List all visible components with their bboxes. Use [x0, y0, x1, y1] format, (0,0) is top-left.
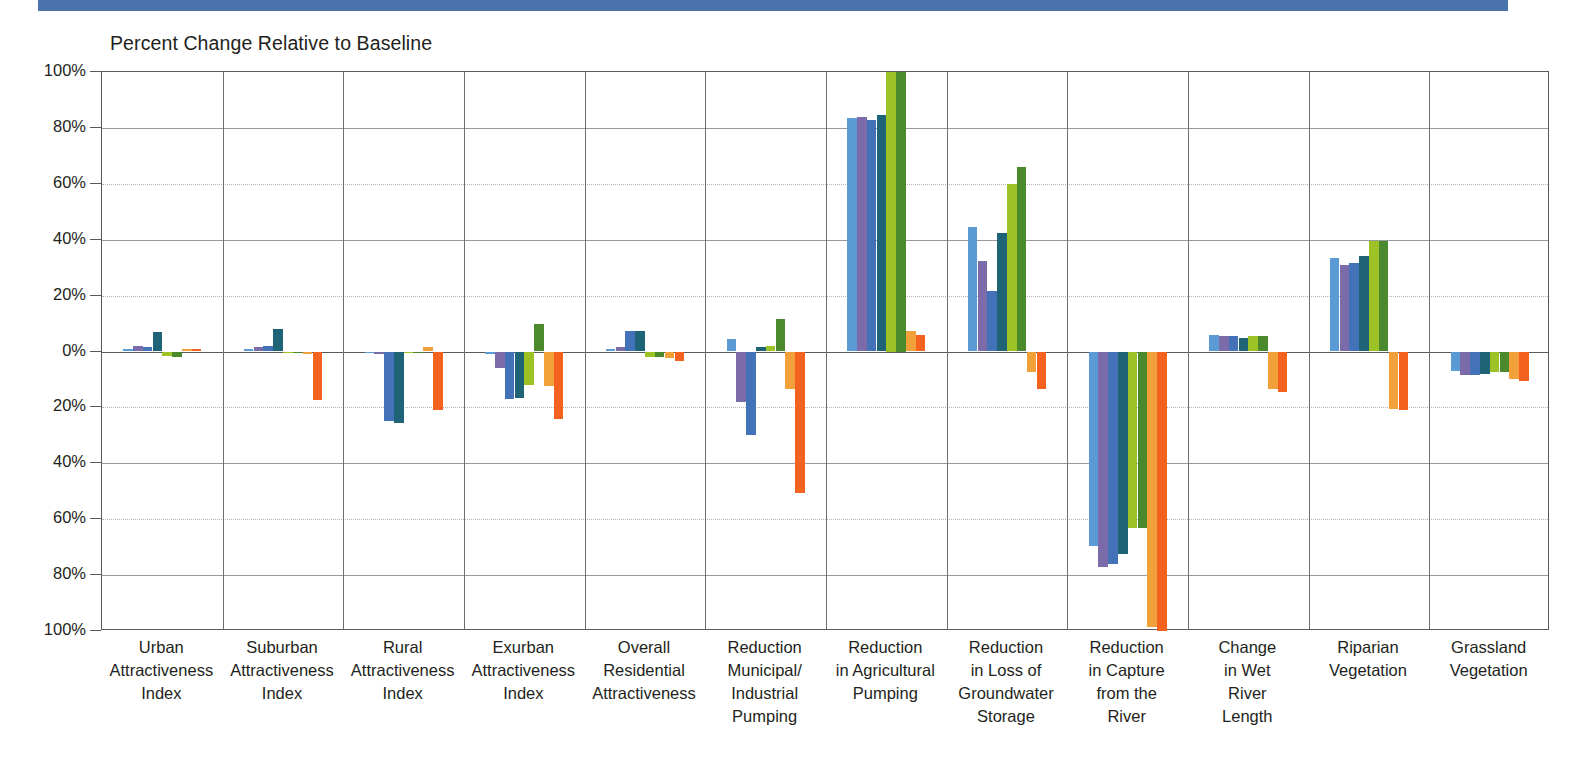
- bar-group: [102, 72, 1548, 629]
- bar-chart: Percent Change Relative to Baseline 100%…: [0, 0, 1588, 779]
- y-axis-tick: [90, 351, 101, 352]
- bar: [1500, 352, 1510, 373]
- bar: [1490, 352, 1500, 373]
- y-axis-tick: [90, 630, 101, 631]
- x-axis-label-line: Vegetation: [1409, 659, 1568, 682]
- bar: [1509, 352, 1519, 380]
- bar: [1470, 352, 1480, 376]
- y-axis-tick: [90, 406, 101, 407]
- bar: [1451, 352, 1461, 372]
- chart-title: Percent Change Relative to Baseline: [110, 32, 432, 55]
- x-axis-category-label: GrasslandVegetation: [1409, 636, 1568, 682]
- y-axis-tick: [90, 295, 101, 296]
- y-axis-tick: [90, 71, 101, 72]
- y-axis-tick: [90, 127, 101, 128]
- y-axis-tick: [90, 183, 101, 184]
- y-axis: [0, 71, 101, 630]
- bar: [1519, 352, 1529, 381]
- bar: [1480, 352, 1490, 374]
- x-axis-labels: UrbanAttractivenessIndexSuburbanAttracti…: [101, 636, 1549, 766]
- y-axis-tick: [90, 518, 101, 519]
- x-axis-label-line: River: [1168, 682, 1327, 705]
- x-axis-label-line: Length: [1168, 705, 1327, 728]
- bar: [1460, 352, 1470, 376]
- x-axis-label-line: Pumping: [685, 705, 844, 728]
- y-axis-tick: [90, 462, 101, 463]
- y-axis-tick: [90, 574, 101, 575]
- y-axis-tick: [90, 239, 101, 240]
- plot-area: [101, 71, 1549, 630]
- x-axis-label-line: Grassland: [1409, 636, 1568, 659]
